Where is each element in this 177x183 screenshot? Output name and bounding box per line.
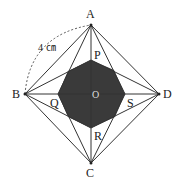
- label-r: R: [94, 130, 102, 142]
- geometry-diagram: A B C D P Q R S O 4 ㎝: [0, 0, 177, 183]
- figure: [0, 0, 177, 183]
- side-length-label: 4 ㎝: [38, 43, 56, 53]
- label-p: P: [94, 49, 101, 61]
- label-a: A: [86, 8, 95, 20]
- label-c: C: [86, 167, 94, 179]
- label-d: D: [163, 88, 172, 100]
- label-q: Q: [50, 97, 59, 109]
- label-o: O: [92, 90, 99, 100]
- label-b: B: [12, 88, 20, 100]
- label-s: S: [127, 97, 134, 109]
